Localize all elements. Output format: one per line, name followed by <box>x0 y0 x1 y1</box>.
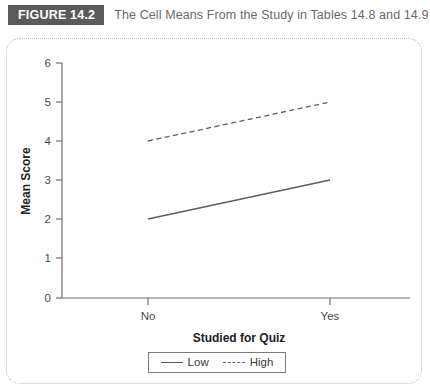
y-tick-label-5: 5 <box>45 96 51 108</box>
legend-entry-high: High <box>223 357 274 369</box>
y-tick-label-4: 4 <box>45 135 52 147</box>
legend-swatch-dashed-icon <box>223 362 245 363</box>
y-tick-label-6: 6 <box>45 57 51 69</box>
x-axis-title: Studied for Quiz <box>193 331 286 345</box>
x-tick-label-yes: Yes <box>321 310 340 322</box>
line-chart: 6 5 4 3 2 1 0 No Yes Mean Score Studied … <box>0 0 430 391</box>
legend-swatch-solid-icon <box>161 362 183 363</box>
series-line-low <box>148 180 330 219</box>
x-tick-label-no: No <box>141 310 156 322</box>
series-line-high <box>148 102 330 141</box>
legend-entry-low: Low <box>161 357 209 369</box>
y-axis-title: Mean Score <box>19 147 33 215</box>
y-axis-ticks: 6 5 4 3 2 1 0 <box>45 57 62 304</box>
legend-label-low: Low <box>188 357 209 369</box>
y-tick-label-1: 1 <box>45 252 51 264</box>
legend-label-high: High <box>250 357 274 369</box>
y-tick-label-3: 3 <box>45 174 51 186</box>
chart-plot-area: 6 5 4 3 2 1 0 No Yes Mean Score Studied … <box>0 0 430 391</box>
y-tick-label-0: 0 <box>45 292 51 304</box>
chart-legend: Low High <box>148 352 286 373</box>
y-tick-label-2: 2 <box>45 213 51 225</box>
x-axis-ticks: No Yes <box>141 298 340 322</box>
